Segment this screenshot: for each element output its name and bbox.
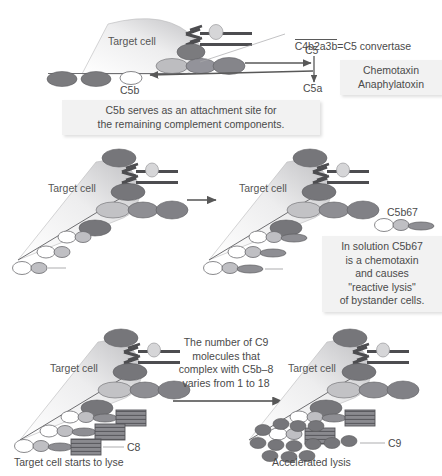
- c9-count-note: The number of C9 molecules that complex …: [166, 336, 286, 390]
- panel-c6-c7: Target cell Target cell C6 C7 C5b67 In s…: [0, 140, 440, 300]
- chemotaxin-anaphylatoxin-note: Chemotaxin Anaphylatoxin: [340, 60, 442, 95]
- c8-label: C8: [127, 441, 140, 453]
- target-cell-label-right: Target cell: [239, 182, 287, 194]
- footer-right-label: Accelerated lysis: [272, 456, 351, 468]
- c5b-label: C5b: [120, 84, 139, 96]
- c5b67-label: C5b67: [387, 206, 418, 218]
- c5-convertase-term: C5 convertase: [343, 40, 411, 52]
- panel-c8-c9: Target cell Target cell C8 C9 The number…: [0, 300, 440, 476]
- c5-label: C5: [305, 44, 318, 56]
- panel1-caption: C5b serves as an attachment site for the…: [62, 100, 320, 135]
- target-cell-label-left: Target cell: [50, 362, 98, 374]
- c5b67-free-complex: [375, 219, 435, 232]
- footer-left-label: Target cell starts to lyse: [14, 456, 124, 468]
- c5a-label: C5a: [303, 82, 322, 94]
- c5-convertase-equation: C4b2a3b=C5 convertase: [283, 28, 411, 64]
- c5b-ellipse: [120, 72, 142, 85]
- panel-c5-convertase: Target cell C4b2a3b=C5 convertase C5 C5a…: [0, 0, 440, 140]
- target-cell-label-right: Target cell: [288, 362, 336, 374]
- c9-label: C9: [388, 437, 401, 449]
- target-cell-label: Target cell: [108, 35, 156, 47]
- target-cell-label-left: Target cell: [48, 182, 96, 194]
- antigen-circle: [209, 25, 223, 40]
